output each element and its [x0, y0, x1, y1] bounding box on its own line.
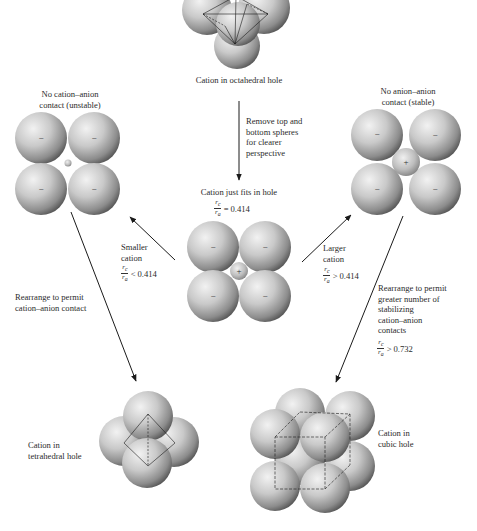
svg-text:−: −	[210, 242, 215, 252]
stable-caption: No anion–anion contact (stable)	[358, 86, 458, 107]
svg-text:−: −	[432, 130, 437, 140]
unstable-caption: No cation–anion contact (unstable)	[20, 89, 120, 110]
ionic-hole-diagram: − − − − − − − − + − − − − + Cation in oc…	[0, 0, 477, 531]
svg-text:+: +	[403, 157, 408, 167]
svg-text:−: −	[91, 184, 96, 194]
unstable-cluster	[15, 112, 120, 215]
tetrahedral-caption: Cation in tetrahedral hole	[28, 440, 82, 461]
svg-text:−: −	[374, 129, 379, 139]
octahedral-cluster	[182, 0, 290, 69]
tetrahedral-cluster	[99, 391, 199, 488]
center-caption: Cation just fits in hole	[180, 187, 298, 198]
smaller-cation-label: Smaller cation	[121, 242, 148, 263]
cubic-cluster	[250, 388, 375, 513]
larger-cation-label: Larger cation	[323, 243, 346, 264]
ratio-equal-0414: rcra = 0.414	[214, 199, 250, 219]
svg-text:−: −	[91, 133, 96, 143]
ratio-less-0414: rcra < 0.414	[121, 264, 157, 284]
svg-text:−: −	[210, 291, 215, 301]
rearrange-left-note: Rearrange to permit cation–anion contact	[15, 292, 86, 313]
remove-spheres-note: Remove top and bottom spheres for cleare…	[246, 116, 302, 158]
ratio-greater-0414: rcra > 0.414	[323, 266, 359, 286]
svg-text:+: +	[236, 266, 241, 276]
svg-text:−: −	[38, 184, 43, 194]
octahedral-caption: Cation in octahedral hole	[180, 75, 298, 86]
small-cation	[65, 160, 72, 167]
svg-text:−: −	[262, 242, 267, 252]
cubic-caption: Cation in cubic hole	[378, 428, 414, 449]
svg-text:−: −	[38, 133, 43, 143]
svg-text:−: −	[262, 291, 267, 301]
svg-text:−: −	[374, 184, 379, 194]
ratio-greater-0732: rcra > 0.732	[377, 339, 413, 359]
svg-text:−: −	[432, 184, 437, 194]
rearrange-right-note: Rearrange to permit greater number of st…	[378, 283, 447, 336]
